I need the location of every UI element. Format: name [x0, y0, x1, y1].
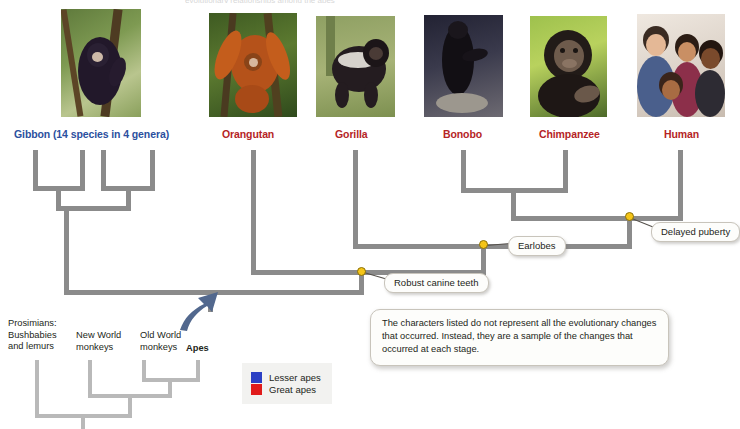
- photo-gorilla: [316, 16, 395, 117]
- character-node-earlobes[interactable]: [479, 240, 488, 249]
- taxon-label-human: Human: [664, 128, 699, 140]
- branch-gibbon-d: [150, 150, 155, 190]
- taxon-label-orangutan: Orangutan: [222, 128, 274, 140]
- callout-robust-canine-teeth[interactable]: Robust canine teeth: [384, 273, 489, 293]
- outgroup-label-new-world-monkeys: New World monkeys: [76, 330, 138, 353]
- legend-item-lesser-apes: Lesser apes: [251, 372, 321, 383]
- cut-off-title: evolutionary relationships among the ape…: [185, 0, 565, 3]
- callout-earlobes[interactable]: Earlobes: [508, 236, 566, 256]
- branch-gibbon-c: [101, 150, 106, 190]
- stem-gibbons: [64, 206, 69, 292]
- branch-gorilla: [353, 150, 358, 246]
- legend-swatch-great-apes: [251, 384, 262, 395]
- explanatory-note: The characters listed do not represent a…: [370, 309, 669, 366]
- branch-gibbon-a: [33, 150, 38, 190]
- outgroup-label-prosimians: Prosimians: Bushbabies and lemurs: [8, 318, 72, 353]
- legend-label-lesser-apes: Lesser apes: [269, 372, 321, 383]
- photo-orangutan: [209, 13, 297, 117]
- apes-pointer-arrow: [176, 288, 222, 332]
- character-node-robust-canine-teeth[interactable]: [357, 267, 366, 276]
- legend-swatch-lesser-apes: [251, 372, 262, 383]
- branch-bonobo: [461, 150, 466, 191]
- photo-bonobo: [424, 15, 503, 117]
- outgroup-label-apes: Apes: [186, 343, 222, 355]
- callout-delayed-puberty[interactable]: Delayed puberty: [651, 222, 740, 242]
- outgroup-stem-anthropoids: [128, 394, 132, 416]
- photo-gibbon: [61, 9, 141, 117]
- outgroup-stem-root: [81, 414, 85, 429]
- legend: Lesser apes Great apes: [242, 363, 332, 404]
- outgroup-branch-apes: [196, 360, 200, 380]
- branch-chimpanzee: [563, 150, 568, 191]
- branch-gibbon-b: [80, 150, 85, 190]
- branch-human: [678, 150, 683, 219]
- legend-label-great-apes: Great apes: [269, 384, 316, 395]
- outgroup-branch-new-world: [88, 360, 92, 396]
- taxon-label-bonobo: Bonobo: [443, 128, 482, 140]
- taxon-label-gorilla: Gorilla: [335, 128, 368, 140]
- outgroup-branch-old-world: [142, 360, 146, 380]
- taxon-label-chimpanzee: Chimpanzee: [539, 128, 600, 140]
- outgroup-branch-prosimians: [35, 360, 39, 416]
- photo-chimpanzee: [530, 16, 607, 117]
- join-pan-human: [511, 216, 683, 221]
- character-node-delayed-puberty[interactable]: [625, 212, 634, 221]
- photo-human: [637, 14, 725, 117]
- legend-item-great-apes: Great apes: [251, 384, 321, 395]
- taxon-label-gibbon: Gibbon (14 species in 4 genera): [14, 128, 169, 140]
- branch-orangutan: [251, 150, 256, 273]
